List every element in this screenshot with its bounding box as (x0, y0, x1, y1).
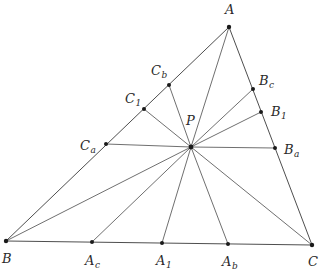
point-P (189, 145, 194, 150)
point-Ab (226, 242, 230, 246)
edge-AB (6, 27, 229, 241)
point-A1 (160, 241, 164, 245)
label-C: C (308, 254, 318, 269)
segment-P-B1 (191, 112, 261, 147)
point-C1 (142, 107, 146, 111)
label-A: A (224, 2, 234, 17)
label-Cb: Cb (151, 63, 167, 80)
label-C1: C1 (125, 91, 141, 108)
label-Ac: Ac (84, 253, 100, 270)
point-C (310, 243, 314, 247)
point-B1 (259, 110, 263, 114)
geometry-diagram: ABCPCbC1CaBcB1BaAcA1Ab (0, 0, 319, 270)
segment-P-Ca (106, 144, 191, 147)
segment-P-B (6, 147, 191, 241)
segment-P-C (191, 147, 312, 245)
points (4, 25, 314, 247)
label-P: P (185, 113, 195, 128)
edge-BC (6, 241, 312, 245)
point-A (227, 25, 231, 29)
label-B1: B1 (270, 104, 287, 121)
point-Ba (273, 146, 277, 150)
segment-P-Ba (191, 147, 275, 148)
label-Ba: Ba (283, 142, 299, 159)
label-Ab: Ab (221, 254, 238, 270)
label-Ca: Ca (80, 138, 96, 155)
point-B (4, 239, 8, 243)
triangle-edges (6, 27, 312, 245)
segment-P-Ac (92, 147, 191, 242)
point-Cb (167, 83, 171, 87)
point-Bc (251, 87, 255, 91)
label-B: B (1, 251, 12, 266)
label-A1: A1 (155, 253, 172, 270)
point-Ca (104, 142, 108, 146)
cevian-segments (6, 27, 312, 245)
point-Ac (90, 240, 94, 244)
label-Bc: Bc (258, 73, 274, 90)
edge-CA (229, 27, 312, 245)
